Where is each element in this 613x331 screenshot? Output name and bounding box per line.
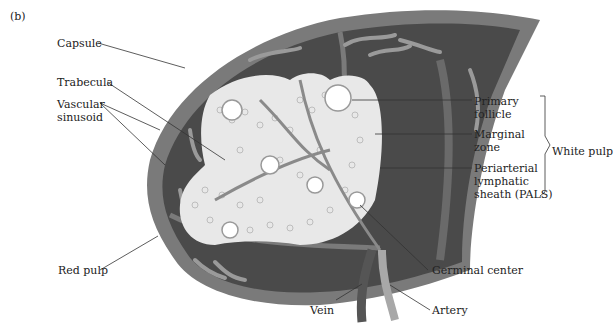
- label-vascular-sinusoid-1: Vascular: [57, 98, 105, 111]
- label-vascular-sinusoid-2: sinusoid: [57, 111, 103, 124]
- label-pals-3: sheath (PALS): [474, 188, 553, 201]
- label-pals-2: lymphatic: [474, 175, 529, 188]
- label-germinal-center: Germinal center: [432, 264, 523, 277]
- label-white-pulp: White pulp: [552, 145, 613, 158]
- label-artery: Artery: [432, 304, 468, 317]
- label-primary-follicle-2: follicle: [474, 108, 511, 121]
- primary-follicle: [325, 85, 351, 111]
- panel-label: (b): [10, 10, 26, 23]
- label-capsule: Capsule: [57, 37, 102, 50]
- label-primary-follicle-1: Primary: [474, 95, 519, 108]
- label-marginal-zone-1: Marginal: [474, 128, 525, 141]
- label-marginal-zone-2: zone: [474, 141, 500, 154]
- label-vein: Vein: [310, 304, 334, 317]
- label-trabecula: Trabecula: [57, 76, 113, 89]
- label-pals-1: Periarterial: [474, 162, 538, 175]
- label-red-pulp: Red pulp: [58, 264, 108, 277]
- germinal-center: [349, 192, 365, 208]
